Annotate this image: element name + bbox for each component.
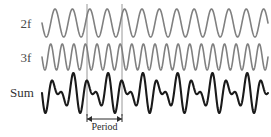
trace-label-2f: 2f <box>21 16 33 31</box>
trace-label-3f: 3f <box>21 50 33 65</box>
waveform-figure: 2f 3f Sum Period <box>0 0 271 137</box>
period-label: Period <box>91 121 117 132</box>
figure-background <box>0 0 271 137</box>
waveform-svg: 2f 3f Sum Period <box>0 0 271 137</box>
trace-label-sum: Sum <box>10 85 34 100</box>
